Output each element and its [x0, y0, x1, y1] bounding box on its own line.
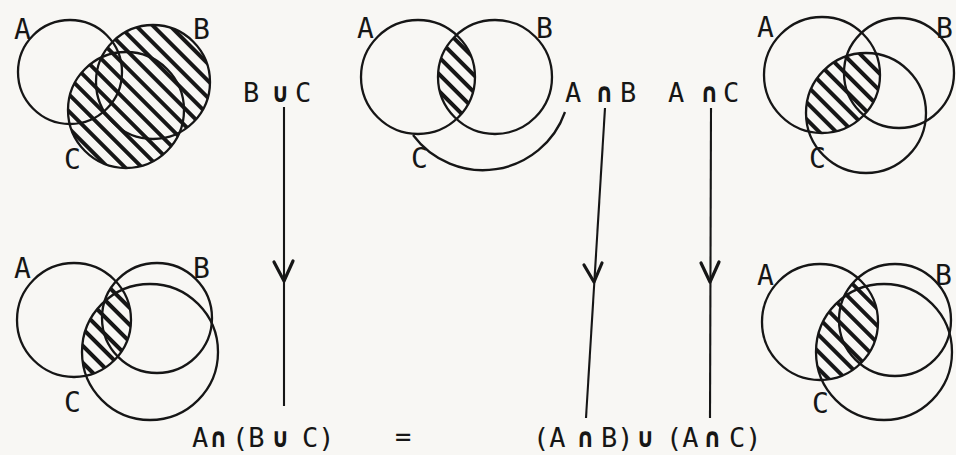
- arrow-a-intersect-b: [584, 108, 605, 418]
- annotation-a-intersect-b: A ∩ B: [565, 77, 636, 108]
- set-label-c: C: [809, 142, 826, 175]
- arrowhead-down-icon: [584, 263, 602, 282]
- equation-left-open-b: (B: [232, 422, 265, 453]
- label-ac-a: A: [668, 77, 684, 108]
- venn-top-left: A B C: [0, 0, 240, 190]
- equation-left-a: A: [192, 422, 208, 453]
- intersect-symbol: ∩: [577, 422, 593, 453]
- arrow-shaft: [710, 108, 711, 418]
- venn-bottom-right: A B C: [757, 255, 952, 420]
- intersect-symbol: ∩: [596, 77, 612, 108]
- set-label-b: B: [193, 13, 210, 46]
- label-ab-a: A: [565, 77, 581, 108]
- union-symbol: ∪: [637, 422, 653, 453]
- intersect-symbol: ∩: [704, 422, 720, 453]
- venn-distributive-law-figure: A B C A B C A B C A B C: [0, 0, 956, 455]
- label-ac-c: C: [723, 77, 739, 108]
- set-label-b: B: [193, 252, 210, 285]
- label-ab-b: B: [620, 77, 636, 108]
- equation-right-b-close: B): [601, 422, 634, 453]
- set-label-c: C: [64, 143, 81, 176]
- union-symbol: ∪: [272, 77, 288, 108]
- label-bc-c: C: [295, 77, 311, 108]
- arrow-a-intersect-c: [701, 108, 719, 418]
- equation-left-c-close: C): [302, 422, 335, 453]
- scanned-figure-page: A B C A B C A B C A B C: [0, 0, 956, 455]
- set-label-a: A: [14, 252, 31, 285]
- annotation-b-union-c: B ∪ C: [243, 77, 311, 108]
- equals-sign: =: [395, 421, 411, 452]
- equation-right-open-a-1: (A: [533, 422, 566, 453]
- set-label-b: B: [935, 259, 952, 292]
- venn-top-middle: A B C: [357, 12, 565, 175]
- set-label-a: A: [14, 13, 31, 46]
- intersect-symbol: ∩: [701, 77, 717, 108]
- venn-bottom-left: A B C: [14, 252, 218, 420]
- set-label-a: A: [757, 11, 774, 44]
- set-label-a: A: [357, 12, 374, 45]
- arrow-b-union-c: [274, 107, 293, 406]
- circle-c: [413, 112, 565, 170]
- set-label-c: C: [411, 142, 428, 175]
- set-label-b: B: [536, 12, 553, 45]
- set-label-b: B: [936, 12, 953, 45]
- equation: A ∩ (B ∪ C) = (A ∩ B) ∪ (A ∩ C): [192, 421, 762, 453]
- annotation-a-intersect-c: A ∩ C: [668, 77, 739, 108]
- set-label-c: C: [64, 386, 81, 419]
- union-symbol: ∪: [272, 422, 288, 453]
- label-bc-b: B: [243, 77, 259, 108]
- intersect-symbol: ∩: [210, 422, 226, 453]
- equation-right-open-a-2: (A: [666, 422, 699, 453]
- venn-top-right: A B C: [757, 11, 954, 175]
- set-label-a: A: [757, 259, 774, 292]
- equation-right-c-close: C): [729, 422, 762, 453]
- set-label-c: C: [812, 387, 829, 420]
